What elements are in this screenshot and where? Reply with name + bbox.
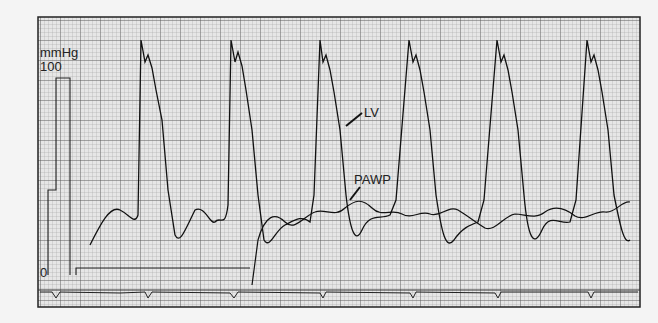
pressure-tracing-figure	[0, 0, 658, 323]
y-unit-label: mmHg	[40, 46, 78, 59]
lv-annotation: LV	[364, 106, 379, 119]
y-bottom-label: 0	[40, 266, 47, 279]
pawp-annotation: PAWP	[354, 173, 391, 186]
y-top-label: 100	[40, 60, 62, 73]
